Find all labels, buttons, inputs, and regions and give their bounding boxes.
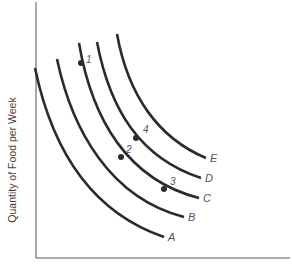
point-marker-3: [161, 186, 167, 192]
point-label-2: 2: [125, 144, 132, 155]
curve-label-b: B: [188, 211, 195, 223]
indifference-curve-d: [97, 42, 201, 178]
point-marker-1: [78, 60, 84, 66]
indifference-curve-a: [35, 68, 164, 237]
point-label-4: 4: [143, 124, 149, 135]
curve-label-d: D: [205, 172, 213, 184]
y-axis-label: Quantity of Food per Week: [2, 60, 22, 260]
indifference-curve-b: [57, 59, 184, 217]
point-label-3: 3: [170, 176, 176, 187]
indifference-curve-c: [79, 43, 199, 198]
point-marker-4: [133, 135, 139, 141]
y-axis-label-text: Quantity of Food per Week: [6, 97, 18, 222]
curve-group: ABCDE: [35, 34, 218, 243]
indifference-curve-chart: ABCDE 1234: [0, 0, 292, 265]
indifference-curve-e: [117, 34, 206, 158]
curve-label-e: E: [210, 152, 218, 164]
point-label-1: 1: [86, 54, 92, 65]
curve-label-c: C: [203, 192, 211, 204]
curve-label-a: A: [167, 231, 175, 243]
point-marker-2: [118, 154, 124, 160]
